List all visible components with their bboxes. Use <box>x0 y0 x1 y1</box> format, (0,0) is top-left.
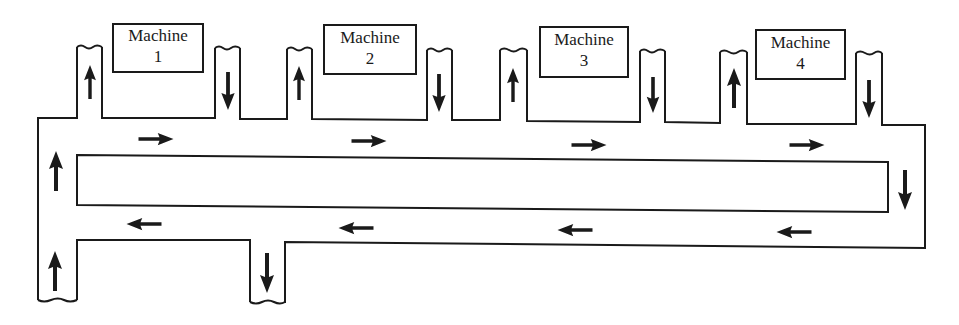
machine-name: Machine <box>540 29 628 50</box>
arrow-left-icon <box>558 224 593 236</box>
arrow-down-icon <box>432 74 445 112</box>
machine-number: 1 <box>113 46 203 67</box>
arrow-up-icon <box>49 151 63 191</box>
arrow-left-icon <box>127 218 162 230</box>
arrow-left-icon <box>777 226 812 238</box>
machine-label-2: Machine 2 <box>324 27 416 69</box>
arrow-down-icon <box>260 253 274 293</box>
arrow-up-icon <box>507 68 519 102</box>
arrow-down-icon <box>898 170 912 210</box>
machine-name: Machine <box>113 25 203 46</box>
arrow-up-icon <box>84 65 96 99</box>
machine-name: Machine <box>756 32 845 53</box>
inner-island <box>77 155 888 212</box>
arrow-left-icon <box>339 222 374 234</box>
machine-number: 3 <box>540 50 628 71</box>
arrow-down-icon <box>221 72 234 110</box>
arrow-right-icon <box>790 139 825 151</box>
arrow-down-icon <box>862 80 875 118</box>
arrow-down-icon <box>647 77 660 113</box>
machine-label-3: Machine 3 <box>540 29 628 71</box>
machine-label-1: Machine 1 <box>113 25 203 67</box>
arrow-up-icon <box>48 251 62 291</box>
pipe-cut-ends <box>38 46 882 304</box>
arrow-up-icon <box>293 66 305 100</box>
machine-label-4: Machine 4 <box>756 32 845 74</box>
arrow-up-icon <box>727 68 741 108</box>
machine-number: 4 <box>756 53 845 74</box>
outer-conveyor-outline <box>38 47 925 303</box>
machine-number: 2 <box>324 48 416 69</box>
arrow-right-icon <box>572 139 607 151</box>
arrow-right-icon <box>139 133 174 145</box>
machine-name: Machine <box>324 27 416 48</box>
arrow-right-icon <box>352 135 387 147</box>
